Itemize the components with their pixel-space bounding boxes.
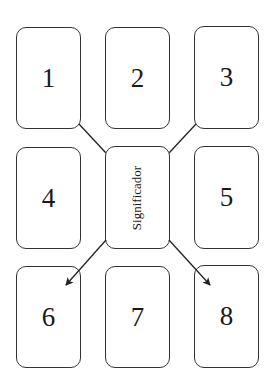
card-4: 4 (16, 147, 81, 249)
card-1-label: 1 (42, 63, 56, 94)
card-significador: Significador (105, 146, 170, 249)
card-6: 6 (16, 266, 81, 368)
card-7-label: 7 (131, 302, 145, 333)
card-4-label: 4 (42, 183, 56, 214)
card-significador-label: Significador (130, 165, 146, 229)
card-3-label: 3 (220, 62, 234, 93)
card-2-label: 2 (131, 63, 145, 94)
card-8: 8 (194, 265, 259, 368)
card-8-label: 8 (220, 301, 234, 332)
card-5-label: 5 (220, 182, 234, 213)
card-6-label: 6 (42, 302, 56, 333)
card-1: 1 (16, 27, 81, 129)
card-7: 7 (105, 266, 170, 368)
card-5: 5 (194, 146, 259, 249)
card-2: 2 (105, 27, 170, 129)
card-3: 3 (194, 26, 259, 129)
